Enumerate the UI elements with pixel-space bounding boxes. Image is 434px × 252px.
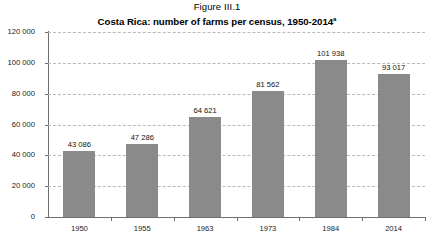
y-axis-tick-label: 120 000 [0,28,35,36]
figure-title-footnote-marker: a [333,16,336,22]
bar [378,74,410,217]
bar-value-label: 101 938 [301,49,361,58]
bar-value-label: 47 286 [112,133,172,142]
x-axis-tick-label: 1973 [238,224,298,233]
x-axis-tick [362,217,363,221]
gridline [48,155,425,156]
bar-value-label: 81 562 [238,80,298,89]
figure-number: Figure III.1 [0,1,434,13]
y-axis-tick [45,217,48,218]
bar-value-label: 64 621 [175,106,235,115]
gridline [48,32,425,33]
y-axis-tick [45,186,48,187]
y-axis-tick [45,63,48,64]
gridline [48,186,425,187]
y-axis-tick-label: 40 000 [0,151,35,159]
figure-title: Costa Rica: number of farms per census, … [0,13,434,28]
bar-value-label: 93 017 [364,63,424,72]
y-axis-tick [45,32,48,33]
figure-container: Figure III.1 Costa Rica: number of farms… [0,0,434,252]
figure-title-block: Figure III.1 Costa Rica: number of farms… [0,1,434,28]
bar [189,117,221,217]
y-axis-tick-label: 0 [0,213,35,221]
bar [126,144,158,217]
gridline [48,94,425,95]
y-axis-tick-label: 60 000 [0,121,35,129]
y-axis-tick [45,125,48,126]
y-axis-tick-label: 20 000 [0,182,35,190]
y-axis-tick [45,94,48,95]
y-axis-tick [45,155,48,156]
y-axis-tick-label: 100 000 [0,59,35,67]
figure-title-text: Costa Rica: number of farms per census, … [98,16,334,27]
bar [63,151,95,217]
x-axis-tick-label: 1955 [112,224,172,233]
x-axis-tick [425,217,426,221]
x-axis-tick [174,217,175,221]
bar [315,60,347,217]
x-axis-tick-label: 1963 [175,224,235,233]
gridline [48,125,425,126]
bar-value-label: 43 086 [49,140,109,149]
bar [252,91,284,217]
x-axis-tick-label: 1950 [49,224,109,233]
x-axis-tick [299,217,300,221]
y-axis-tick-label: 80 000 [0,90,35,98]
x-axis-tick-label: 1984 [301,224,361,233]
plot-area: 020 00040 00060 00080 000100 000120 000 … [48,32,425,217]
x-axis-tick-label: 2014 [364,224,424,233]
x-axis-tick [237,217,238,221]
x-axis-tick [111,217,112,221]
